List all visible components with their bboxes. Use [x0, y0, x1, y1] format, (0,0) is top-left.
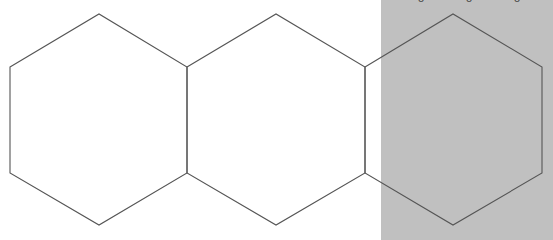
clipped-glyph-2: o — [465, 0, 473, 4]
clipped-top-glyph-strip: o o o — [0, 0, 553, 6]
hexagon-left[interactable] — [10, 14, 187, 225]
clipped-glyph-3: o — [513, 0, 521, 4]
hexagon-diagram-canvas: o o o — [0, 0, 553, 240]
hexagon-middle[interactable] — [187, 14, 365, 225]
clipped-glyph-1: o — [417, 0, 425, 4]
hexagon-group — [0, 0, 553, 240]
hexagon-right[interactable] — [365, 14, 542, 225]
